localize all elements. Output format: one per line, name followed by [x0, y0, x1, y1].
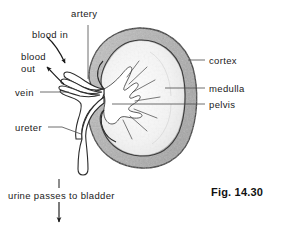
blood-out-arrow: [47, 67, 64, 84]
label-artery: artery: [71, 8, 97, 19]
kidney-diagram-figure: artery blood in blood out vein ureter co…: [0, 0, 283, 231]
label-pelvis: pelvis: [209, 99, 235, 110]
label-urine-flow: urine passes to bladder: [8, 190, 115, 201]
label-cortex: cortex: [209, 55, 237, 66]
kidney-body: [88, 28, 196, 168]
figure-caption: Fig. 14.30: [211, 186, 263, 198]
kidney-diagram-canvas: artery blood in blood out vein ureter co…: [0, 0, 283, 231]
label-blood-in: blood in: [32, 29, 68, 40]
label-blood-out-line2: out: [21, 63, 35, 74]
blood-in-arrow: [47, 37, 65, 63]
label-medulla: medulla: [209, 83, 245, 94]
label-vein: vein: [15, 87, 34, 98]
label-blood-out-line1: blood: [21, 51, 46, 62]
label-ureter: ureter: [15, 122, 42, 133]
